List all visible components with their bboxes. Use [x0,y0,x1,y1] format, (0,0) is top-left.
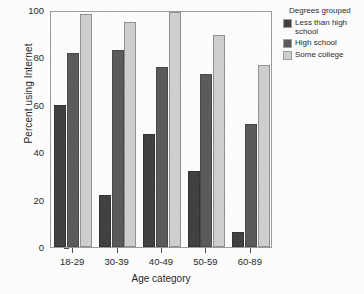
bar [143,134,155,247]
legend-swatch-icon [283,19,292,28]
x-tick-mark [72,248,73,253]
x-tick-mark [161,248,162,253]
bar [232,232,244,247]
bar-chart-figure: Percent using Internet 020406080100 18-2… [0,0,364,294]
y-tick-label: 20 [33,196,44,206]
y-tick-label: 80 [33,53,44,63]
bar [124,22,136,247]
bar [245,124,257,247]
legend-swatch-icon [283,39,292,48]
y-axis-tick-labels: 020406080100 [20,0,44,294]
bar [99,195,111,247]
plot-area [50,11,272,248]
legend-item[interactable]: High school [283,38,363,48]
bar [169,12,181,247]
x-tick-mark [205,248,206,253]
legend-swatch-icon [283,51,292,60]
x-tick-label: 60-89 [220,256,280,267]
bar [258,65,270,247]
bar [213,35,225,247]
bars-container [51,12,271,247]
y-tick-label: 60 [33,101,44,111]
bar [156,67,168,247]
y-tick-label: 0 [39,243,44,253]
legend-item[interactable]: Less than high school [283,18,363,36]
legend-title: Degrees grouped [289,6,363,15]
x-tick-mark [117,248,118,253]
legend-item-label: Some college [295,50,343,59]
y-tick-label: 40 [33,148,44,158]
y-tick-label: 100 [28,6,44,16]
legend-entries: Less than high schoolHigh schoolSome col… [283,18,363,60]
x-tick-mark [250,248,251,253]
bar [80,14,92,247]
bar [200,74,212,247]
legend-item-label: High school [295,38,337,47]
legend: Degrees grouped Less than high schoolHig… [283,6,363,62]
legend-item[interactable]: Some college [283,50,363,60]
legend-item-label: Less than high school [295,18,363,36]
bar [67,53,79,247]
x-axis-title: Age category [50,273,272,284]
bar [112,50,124,247]
y-tick-mark [64,248,69,249]
bar [188,171,200,247]
bar [54,105,66,247]
